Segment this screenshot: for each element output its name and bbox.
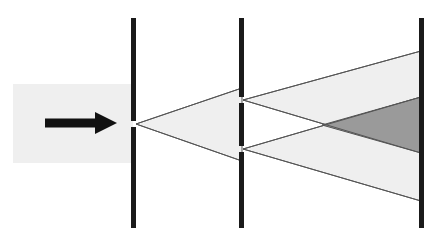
- barrier-one-lower-segment: [131, 127, 136, 228]
- double-slit-diffraction-figure: [0, 0, 439, 241]
- barrier-two-middle-segment: [239, 103, 244, 146]
- barrier-two-double-slit: [239, 18, 244, 228]
- barrier-two-lower-segment: [239, 152, 244, 228]
- arrow-shaft: [45, 119, 98, 128]
- barrier-two-upper-segment: [239, 18, 244, 97]
- detection-screen: [419, 18, 424, 228]
- barrier-one-upper-segment: [131, 18, 136, 121]
- diagram-canvas: [0, 0, 439, 241]
